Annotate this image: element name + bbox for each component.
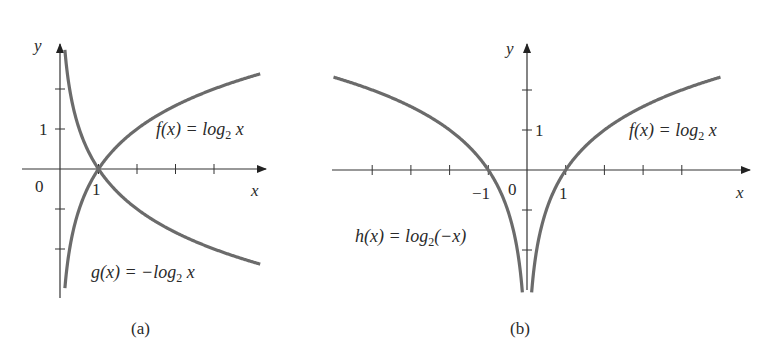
f-label-main: f(x) = log (156, 119, 225, 140)
x-axis-label: x (250, 181, 259, 200)
g-label: g(x) = −log2 x (91, 262, 195, 285)
x-tick-label-1: 1 (92, 180, 101, 199)
f-label-main: f(x) = log (629, 120, 698, 141)
h-label: h(x) = log2(−x) (355, 226, 466, 249)
y-axis-label: y (504, 39, 514, 58)
x-axis-label: x (735, 183, 744, 202)
caption-a: (a) (131, 319, 150, 338)
y-tick-label-1: 1 (39, 120, 48, 139)
panel-a: y x 0 1 1 f(x) = log2 x g(x) = −log2 x (… (22, 36, 266, 338)
curve-h (334, 77, 523, 292)
f-label-tail: x (231, 119, 244, 139)
h-label-main: h(x) = log (355, 226, 428, 247)
origin-label: 0 (508, 180, 517, 199)
x-tick-label-neg1: −1 (472, 184, 490, 203)
panel-b: y x 0 −1 1 1 f(x) = log2 x h(x) = log2(−… (332, 39, 750, 338)
caption-b: (b) (510, 319, 530, 338)
f-label: f(x) = log2 x (156, 119, 244, 142)
figure: y x 0 1 1 f(x) = log2 x g(x) = −log2 x (… (0, 0, 768, 354)
f-label: f(x) = log2 x (629, 120, 717, 143)
h-label-tail: (−x) (434, 226, 466, 247)
g-label-main: g(x) = −log (91, 262, 176, 283)
y-axis-label: y (32, 36, 42, 55)
x-tick-label-1: 1 (559, 184, 568, 203)
origin-label: 0 (35, 177, 44, 196)
y-tick-label-1: 1 (535, 121, 544, 140)
f-label-tail: x (704, 120, 717, 140)
g-label-tail: x (182, 262, 195, 282)
